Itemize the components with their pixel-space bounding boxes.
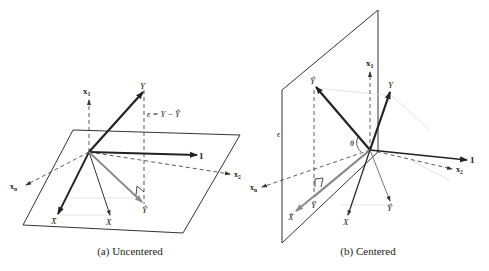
panel-uncentered: x1 Y ϵ = Y − Ŷ 1 x2 xn Ŷ X̄ X (a) Uncent… bbox=[10, 81, 241, 258]
yhat-lower-vector-b bbox=[370, 150, 390, 201]
x2-axis-b bbox=[370, 150, 452, 169]
x2-axis bbox=[89, 152, 230, 174]
x2-axis-label: x2 bbox=[234, 170, 241, 180]
x2-axis-label-b: x2 bbox=[456, 165, 463, 175]
one-vector-label-b: 1 bbox=[470, 155, 475, 165]
epsilon-label-b: ϵ bbox=[277, 130, 281, 139]
faint-guides-b bbox=[316, 88, 450, 205]
centered-plane bbox=[282, 10, 378, 243]
yhat-lower-label-b: Ŷ bbox=[387, 203, 393, 213]
x1-axis-label-b: x1 bbox=[366, 58, 374, 69]
y-label: Y bbox=[140, 81, 146, 91]
xbar-label-b: X̃ bbox=[287, 212, 294, 222]
xn-axis-label: xn bbox=[10, 182, 17, 192]
xn-axis bbox=[26, 152, 89, 185]
y-label-b: Y bbox=[388, 80, 394, 90]
xbar-vector bbox=[58, 152, 89, 214]
theta-label: θ bbox=[350, 139, 354, 148]
yhat-vector-b bbox=[316, 87, 370, 150]
ybar-label-b: Ȳ bbox=[311, 200, 317, 210]
xn-axis-label-b: xn bbox=[250, 183, 257, 193]
yhat-label: Ŷ bbox=[142, 205, 148, 215]
yhat-top-label: Ŷ bbox=[310, 76, 316, 86]
panel-centered: Ŷ x1 Y ϵ θ 1 x2 xn Ȳ X̃ X Ŷ (b) Centered bbox=[250, 10, 475, 258]
x-label-b: X bbox=[342, 217, 349, 227]
one-vector-b bbox=[370, 150, 467, 160]
x1-axis-label: x1 bbox=[83, 86, 91, 97]
regression-geometry-figure: x1 Y ϵ = Y − Ŷ 1 x2 xn Ŷ X̄ X (a) Uncent… bbox=[0, 0, 489, 271]
caption-uncentered: (a) Uncentered bbox=[97, 245, 163, 258]
x-label: X bbox=[105, 217, 112, 227]
caption-centered: (b) Centered bbox=[340, 245, 396, 258]
xbar-label: X̄ bbox=[50, 216, 57, 226]
xn-axis-b bbox=[262, 150, 370, 187]
right-angle-marker-b bbox=[315, 178, 323, 187]
y-vector-b bbox=[370, 92, 390, 150]
one-vector-label: 1 bbox=[199, 151, 204, 161]
y-vector bbox=[89, 92, 143, 152]
epsilon-label: ϵ = Y − Ŷ bbox=[147, 109, 181, 119]
